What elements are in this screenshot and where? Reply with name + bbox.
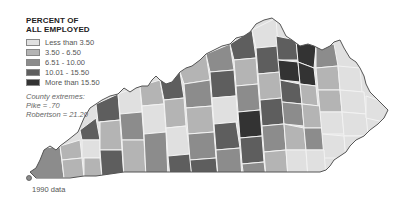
data-year-footnote: 1990 data <box>32 185 65 194</box>
legend-label: Less than 3.50 <box>45 38 94 47</box>
legend-label: 3.50 - 6.50 <box>45 48 81 57</box>
legend-item: 6.51 - 10.00 <box>26 57 100 67</box>
county-extremes-note: County extremes: Pike = .70 Robertson = … <box>26 92 88 119</box>
extremes-max: Robertson = 21.20 <box>26 110 88 119</box>
legend-swatch <box>26 39 40 46</box>
legend-swatch <box>26 79 40 86</box>
extremes-min: Pike = .70 <box>26 101 88 110</box>
legend-swatch <box>26 59 40 66</box>
legend-item: More than 15.50 <box>26 77 100 87</box>
extremes-heading: County extremes: <box>26 92 88 101</box>
legend-label: 10.01 - 15.50 <box>45 68 89 77</box>
legend-item: 10.01 - 15.50 <box>26 67 100 77</box>
legend-item: Less than 3.50 <box>26 37 100 47</box>
legend-item: 3.50 - 6.50 <box>26 47 100 57</box>
legend-label: 6.51 - 10.00 <box>45 58 85 67</box>
legend-title-line2: ALL EMPLOYED <box>26 25 100 34</box>
legend-swatch <box>26 69 40 76</box>
legend-label: More than 15.50 <box>45 78 100 87</box>
map-legend: PERCENT OF ALL EMPLOYED Less than 3.50 3… <box>26 16 100 87</box>
legend-title-line1: PERCENT OF <box>26 16 100 25</box>
legend-swatch <box>26 49 40 56</box>
